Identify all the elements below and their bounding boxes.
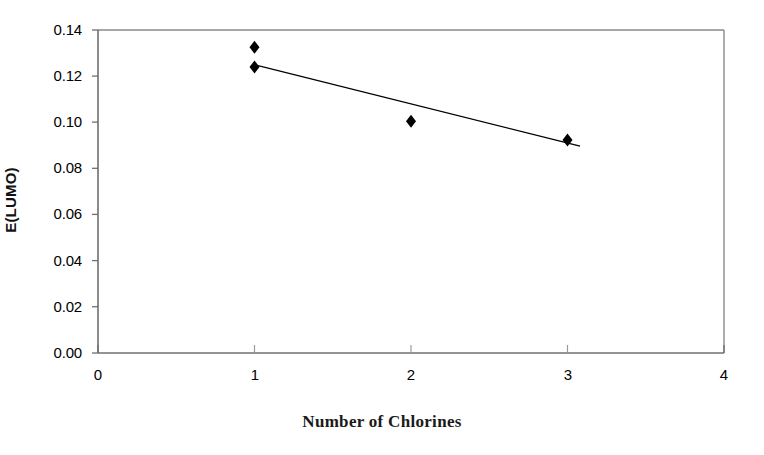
plot-canvas [0, 0, 764, 455]
x-tick-label-1: 1 [240, 366, 270, 383]
data-point-2 [250, 60, 260, 73]
data-markers [250, 41, 573, 147]
y-tick-label-0040: 0.04 [30, 252, 82, 269]
data-point-4 [563, 134, 573, 147]
y-tick-label-0080: 0.08 [30, 159, 82, 176]
y-axis-ticks [92, 30, 98, 353]
y-tick-label-0100: 0.10 [30, 113, 82, 130]
y-tick-label-0020: 0.02 [30, 298, 82, 315]
data-point-3 [406, 115, 416, 128]
x-tick-label-0: 0 [83, 366, 113, 383]
y-tick-label-0120: 0.12 [30, 67, 82, 84]
x-axis-ticks [98, 345, 724, 353]
y-tick-label-0140: 0.14 [30, 21, 82, 38]
trend-line [256, 65, 580, 146]
y-tick-label-0000: 0.00 [30, 344, 82, 361]
y-axis-title: E(LUMO) [2, 120, 19, 280]
chart-container: 0.14 0.12 0.10 0.08 0.06 0.04 0.02 0.00 … [0, 0, 764, 455]
x-tick-label-4: 4 [709, 366, 739, 383]
y-tick-label-0060: 0.06 [30, 205, 82, 222]
x-axis-title: Number of Chlorines [0, 412, 764, 432]
x-tick-label-3: 3 [553, 366, 583, 383]
data-point-1 [250, 41, 260, 54]
x-tick-label-2: 2 [396, 366, 426, 383]
